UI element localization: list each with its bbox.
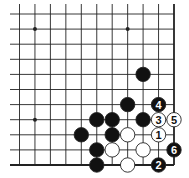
black-stone (120, 97, 134, 111)
move-number: 5 (171, 114, 177, 126)
black-stone (90, 113, 104, 127)
move-number: 6 (171, 144, 177, 156)
white-stone-move-5: 5 (167, 113, 181, 127)
go-board-svg: 435162 (0, 0, 189, 178)
black-stone (136, 113, 150, 127)
white-stone (136, 143, 150, 157)
black-stone (105, 113, 119, 127)
white-stone-move-1: 1 (151, 128, 165, 142)
star-point-icon (33, 118, 37, 122)
black-stone (136, 67, 150, 81)
move-number: 1 (155, 129, 161, 141)
move-number: 2 (155, 159, 161, 171)
white-stone (120, 128, 134, 142)
star-point-icon (33, 27, 37, 31)
black-stone-move-6: 6 (167, 143, 181, 157)
black-stone (105, 128, 119, 142)
go-board-diagram: 435162 (0, 0, 189, 178)
white-stone (120, 158, 134, 172)
black-stone (90, 158, 104, 172)
star-point-icon (126, 27, 130, 31)
white-stone (105, 143, 119, 157)
black-stone (90, 143, 104, 157)
move-number: 4 (155, 99, 162, 111)
white-stone-move-3: 3 (151, 113, 165, 127)
black-stone (74, 128, 88, 142)
black-stone-move-4: 4 (151, 97, 165, 111)
move-number: 3 (155, 114, 161, 126)
black-stone-move-2: 2 (151, 158, 165, 172)
